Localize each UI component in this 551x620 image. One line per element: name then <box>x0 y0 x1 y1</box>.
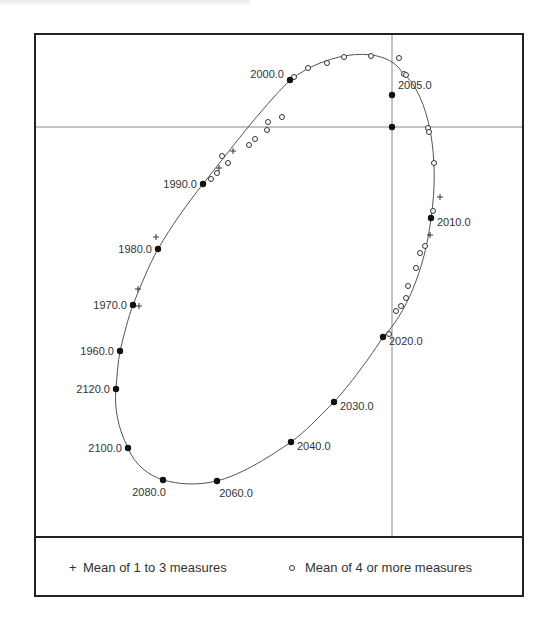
year-point <box>380 334 386 340</box>
open-circle-marker <box>280 115 285 120</box>
plus-marker-icon: + <box>69 560 77 575</box>
plus-marker <box>437 194 443 200</box>
fitted-ellipse-curve <box>116 54 435 484</box>
plus-marker <box>153 234 159 240</box>
open-circle-marker <box>431 209 436 214</box>
legend-label: Mean of 1 to 3 measures <box>83 560 227 575</box>
year-point <box>113 386 119 392</box>
year-point <box>200 181 206 187</box>
reference-center-point <box>389 124 395 130</box>
legend-entry-few-measures: + Mean of 1 to 3 measures <box>69 560 227 575</box>
open-circle-marker <box>306 66 311 71</box>
year-point <box>125 445 131 451</box>
year-label: 2040.0 <box>297 440 331 452</box>
year-point <box>331 399 337 405</box>
year-label: 1960.0 <box>80 345 114 357</box>
plot-frame <box>35 34 523 537</box>
year-label: 2020.0 <box>389 335 423 347</box>
year-label: 1990.0 <box>163 178 197 190</box>
open-circle-marker <box>432 161 437 166</box>
year-point <box>130 302 136 308</box>
legend-label: Mean of 4 or more measures <box>305 560 472 575</box>
year-label: 2100.0 <box>88 442 122 454</box>
open-circle-marker <box>404 296 409 301</box>
year-point <box>428 215 434 221</box>
open-circle-marker <box>247 143 252 148</box>
open-circle-marker <box>325 61 330 66</box>
open-circle-marker <box>342 55 347 60</box>
plus-marker <box>136 303 142 309</box>
open-circle-marker <box>253 137 258 142</box>
year-label: 2080.0 <box>132 486 166 498</box>
open-circle-marker <box>209 177 214 182</box>
year-point <box>117 348 123 354</box>
open-circle-marker <box>427 130 432 135</box>
year-label: 1980.0 <box>118 243 152 255</box>
year-label: 2005.0 <box>398 79 432 91</box>
open-circle-marker <box>369 54 374 59</box>
year-point <box>389 92 395 98</box>
open-circle-marker-icon <box>290 566 295 571</box>
open-circle-marker <box>399 304 404 309</box>
open-circle-marker <box>423 244 428 249</box>
open-circle-marker <box>266 120 271 125</box>
legend-entry-many-measures: Mean of 4 or more measures <box>290 560 473 575</box>
year-label: 2030.0 <box>340 400 374 412</box>
open-circle-marker <box>406 284 411 289</box>
year-label: 2000.0 <box>250 68 284 80</box>
year-point <box>288 439 294 445</box>
year-label: 2060.0 <box>219 487 253 499</box>
open-circle-marker <box>404 73 409 78</box>
open-circle-marker <box>215 171 220 176</box>
open-circle-marker <box>265 128 270 133</box>
data-markers <box>113 54 443 485</box>
year-label: 2120.0 <box>76 383 110 395</box>
open-circle-marker <box>397 56 402 61</box>
open-circle-marker <box>394 309 399 314</box>
year-point <box>214 478 220 484</box>
open-circle-marker <box>226 161 231 166</box>
year-point <box>155 246 161 252</box>
open-circle-marker <box>418 251 423 256</box>
year-point <box>160 477 166 483</box>
open-circle-marker <box>220 154 225 159</box>
year-point <box>287 77 293 83</box>
year-labels: 1960.01970.01980.01990.02000.02005.02010… <box>76 68 470 499</box>
legend: + Mean of 1 to 3 measures Mean of 4 or m… <box>69 560 472 575</box>
year-label: 2010.0 <box>437 216 471 228</box>
year-label: 1970.0 <box>93 299 127 311</box>
open-circle-marker <box>414 266 419 271</box>
polar-motion-chart: 1960.01970.01980.01990.02000.02005.02010… <box>0 0 551 620</box>
